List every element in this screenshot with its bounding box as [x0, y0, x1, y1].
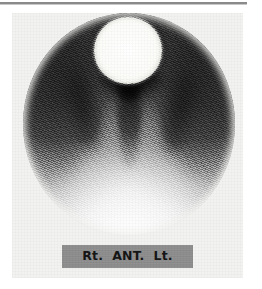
- left-orientation-marker: Lt.: [153, 250, 172, 263]
- orientation-label-band: Rt. ANT. Lt.: [62, 245, 193, 268]
- projection-label: ANT.: [112, 250, 144, 263]
- top-rule-divider-shadow: [0, 4, 247, 5]
- right-orientation-marker: Rt.: [82, 250, 103, 263]
- gamma-camera-field-of-view: [23, 13, 235, 235]
- quantum-noise-texture-2: [23, 13, 235, 235]
- scintigram-image-area: [23, 13, 235, 235]
- scintigram-figure: Rt. ANT. Lt.: [0, 0, 262, 289]
- scintigram-panel: Rt. ANT. Lt.: [12, 13, 243, 278]
